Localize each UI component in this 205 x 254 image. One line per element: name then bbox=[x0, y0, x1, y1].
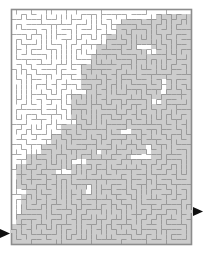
entrance-arrow-icon bbox=[0, 228, 11, 239]
maze-grid[interactable] bbox=[0, 0, 205, 254]
exit-arrow-icon bbox=[193, 206, 204, 217]
maze-puzzle bbox=[0, 0, 205, 254]
